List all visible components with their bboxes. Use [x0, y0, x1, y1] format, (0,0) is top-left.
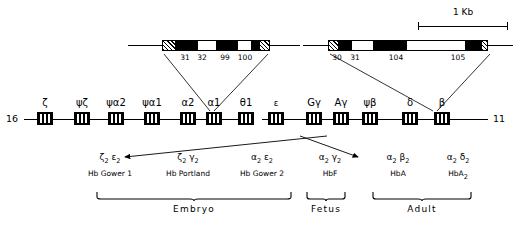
gene-label-zeta: ζ: [42, 98, 47, 108]
globin-gene-cluster-figure: 1 Kb 31 32 99 100: [0, 0, 526, 228]
gene-box-psi-alpha-2: [108, 112, 124, 125]
gene-label-alpha-1: α1: [208, 98, 221, 108]
alpha-exon-1: [176, 40, 198, 51]
gene-box-psi-alpha-1: [144, 112, 160, 125]
gene-box-g-gamma: [306, 112, 322, 125]
alpha-exon-3: [251, 40, 259, 51]
tetramer-formula: α2 ε2: [240, 152, 284, 165]
gene-label-alpha-2: α2: [182, 98, 195, 108]
hemoglobin-hba2: α2 δ2 HbA2: [447, 152, 470, 180]
tetramer-chain-a-count: 2: [325, 157, 329, 165]
tetramer-chain-b-count: 2: [465, 157, 469, 165]
chromosome-16-number: 16: [6, 114, 18, 124]
tetramer-formula: α2 γ2: [319, 152, 341, 165]
hemoglobin-hba: α2 β2 HbA: [387, 152, 410, 178]
alpha-gene-flank-left: [128, 45, 162, 47]
gene-box-alpha-1: [206, 112, 222, 125]
beta-utr-5prime: [328, 40, 339, 51]
beta-gene-body: [328, 40, 488, 51]
gene-box-delta: [402, 112, 418, 125]
hemoglobin-name: HbF: [319, 169, 341, 178]
alpha-gene-body: [162, 40, 270, 51]
gene-box-beta: [434, 112, 450, 125]
gene-box-zeta: [37, 112, 53, 125]
beta-exon-1: [339, 40, 352, 51]
alpha-utr-5prime: [162, 40, 176, 51]
alpha-gene-flank-right: [270, 45, 300, 47]
scale-bar-line: [418, 26, 508, 27]
gene-label-beta: β: [439, 98, 445, 108]
gene-box-theta-1: [238, 112, 254, 125]
tetramer-chain-a-count: 2: [453, 157, 457, 165]
hemoglobin-hb-portland: ζ2 γ2 Hb Portland: [166, 152, 210, 178]
gene-box-psi-zeta: [74, 112, 90, 125]
stage-label-adult: Adult: [407, 204, 436, 214]
tetramer-chain-a-count: 2: [182, 157, 186, 165]
tetramer-formula: ζ2 γ2: [166, 152, 210, 165]
alpha-intron-2: [238, 40, 251, 51]
alpha-exon-2: [216, 40, 238, 51]
tetramer-chain-b-count: 2: [405, 157, 409, 165]
gene-label-psi-zeta: ψζ: [76, 98, 88, 108]
tetramer-chain-b-count: 2: [269, 157, 273, 165]
tetramer-chain-a-count: 2: [257, 157, 261, 165]
hemoglobin-name: HbA: [387, 169, 410, 178]
hemoglobin-name-text: HbA: [448, 169, 464, 178]
stage-label-embryo: Embryo: [173, 204, 215, 214]
hemoglobin-name-subscript: 2: [464, 172, 468, 180]
hemoglobin-hbf: α2 γ2 HbF: [319, 152, 341, 178]
scale-bar-cap-right: [507, 22, 508, 30]
hemoglobin-hb-gower-2: α2 ε2 Hb Gower 2: [240, 152, 284, 178]
alpha-intron-1: [198, 40, 216, 51]
tetramer-chain-b-count: 2: [116, 157, 120, 165]
beta-intron-2: [407, 40, 465, 51]
hemoglobin-name: HbA2: [447, 169, 470, 181]
tetramer-chain-a-count: 2: [104, 157, 108, 165]
gene-label-psi-beta: ψβ: [364, 98, 377, 108]
gene-label-theta-1: θ1: [240, 98, 252, 108]
gene-label-psi-alpha-2: ψα2: [106, 98, 126, 108]
stage-label-fetus: Fetus: [311, 204, 341, 214]
gene-label-a-gamma: Aγ: [335, 98, 348, 108]
tetramer-formula: ζ2 ε2: [88, 152, 132, 165]
gene-label-delta: δ: [407, 98, 413, 108]
beta-utr-3prime: [481, 40, 488, 51]
hemoglobin-hb-gower-1: ζ2 ε2 Hb Gower 1: [88, 152, 132, 178]
gene-label-g-gamma: Gγ: [307, 98, 321, 108]
tetramer-formula: α2 β2: [387, 152, 410, 165]
gene-label-psi-alpha-1: ψα1: [142, 98, 162, 108]
hemoglobin-name: Hb Gower 1: [88, 169, 132, 178]
tetramer-chain-b-count: 2: [195, 157, 199, 165]
gene-box-psi-beta: [362, 112, 378, 125]
beta-exon-3: [465, 40, 481, 51]
beta-exon-2: [373, 40, 407, 51]
gene-box-epsilon: [268, 112, 284, 125]
beta-gene-flank-left: [303, 45, 328, 47]
chromosome-11-number: 11: [493, 114, 505, 124]
scale-bar-label: 1 Kb: [453, 8, 473, 17]
hemoglobin-name: Hb Gower 2: [240, 169, 284, 178]
tetramer-formula: α2 δ2: [447, 152, 470, 165]
gene-box-a-gamma: [333, 112, 349, 125]
tetramer-chain-a-count: 2: [393, 157, 397, 165]
beta-intron-1: [352, 40, 373, 51]
beta-gene-flank-right: [488, 45, 513, 47]
alpha-utr-3prime: [259, 40, 270, 51]
tetramer-chain-b-count: 2: [337, 157, 341, 165]
stage-brackets: [95, 190, 515, 204]
gene-label-epsilon: ε: [274, 99, 279, 108]
gene-box-alpha-2: [180, 112, 196, 125]
hemoglobin-name: Hb Portland: [166, 169, 210, 178]
